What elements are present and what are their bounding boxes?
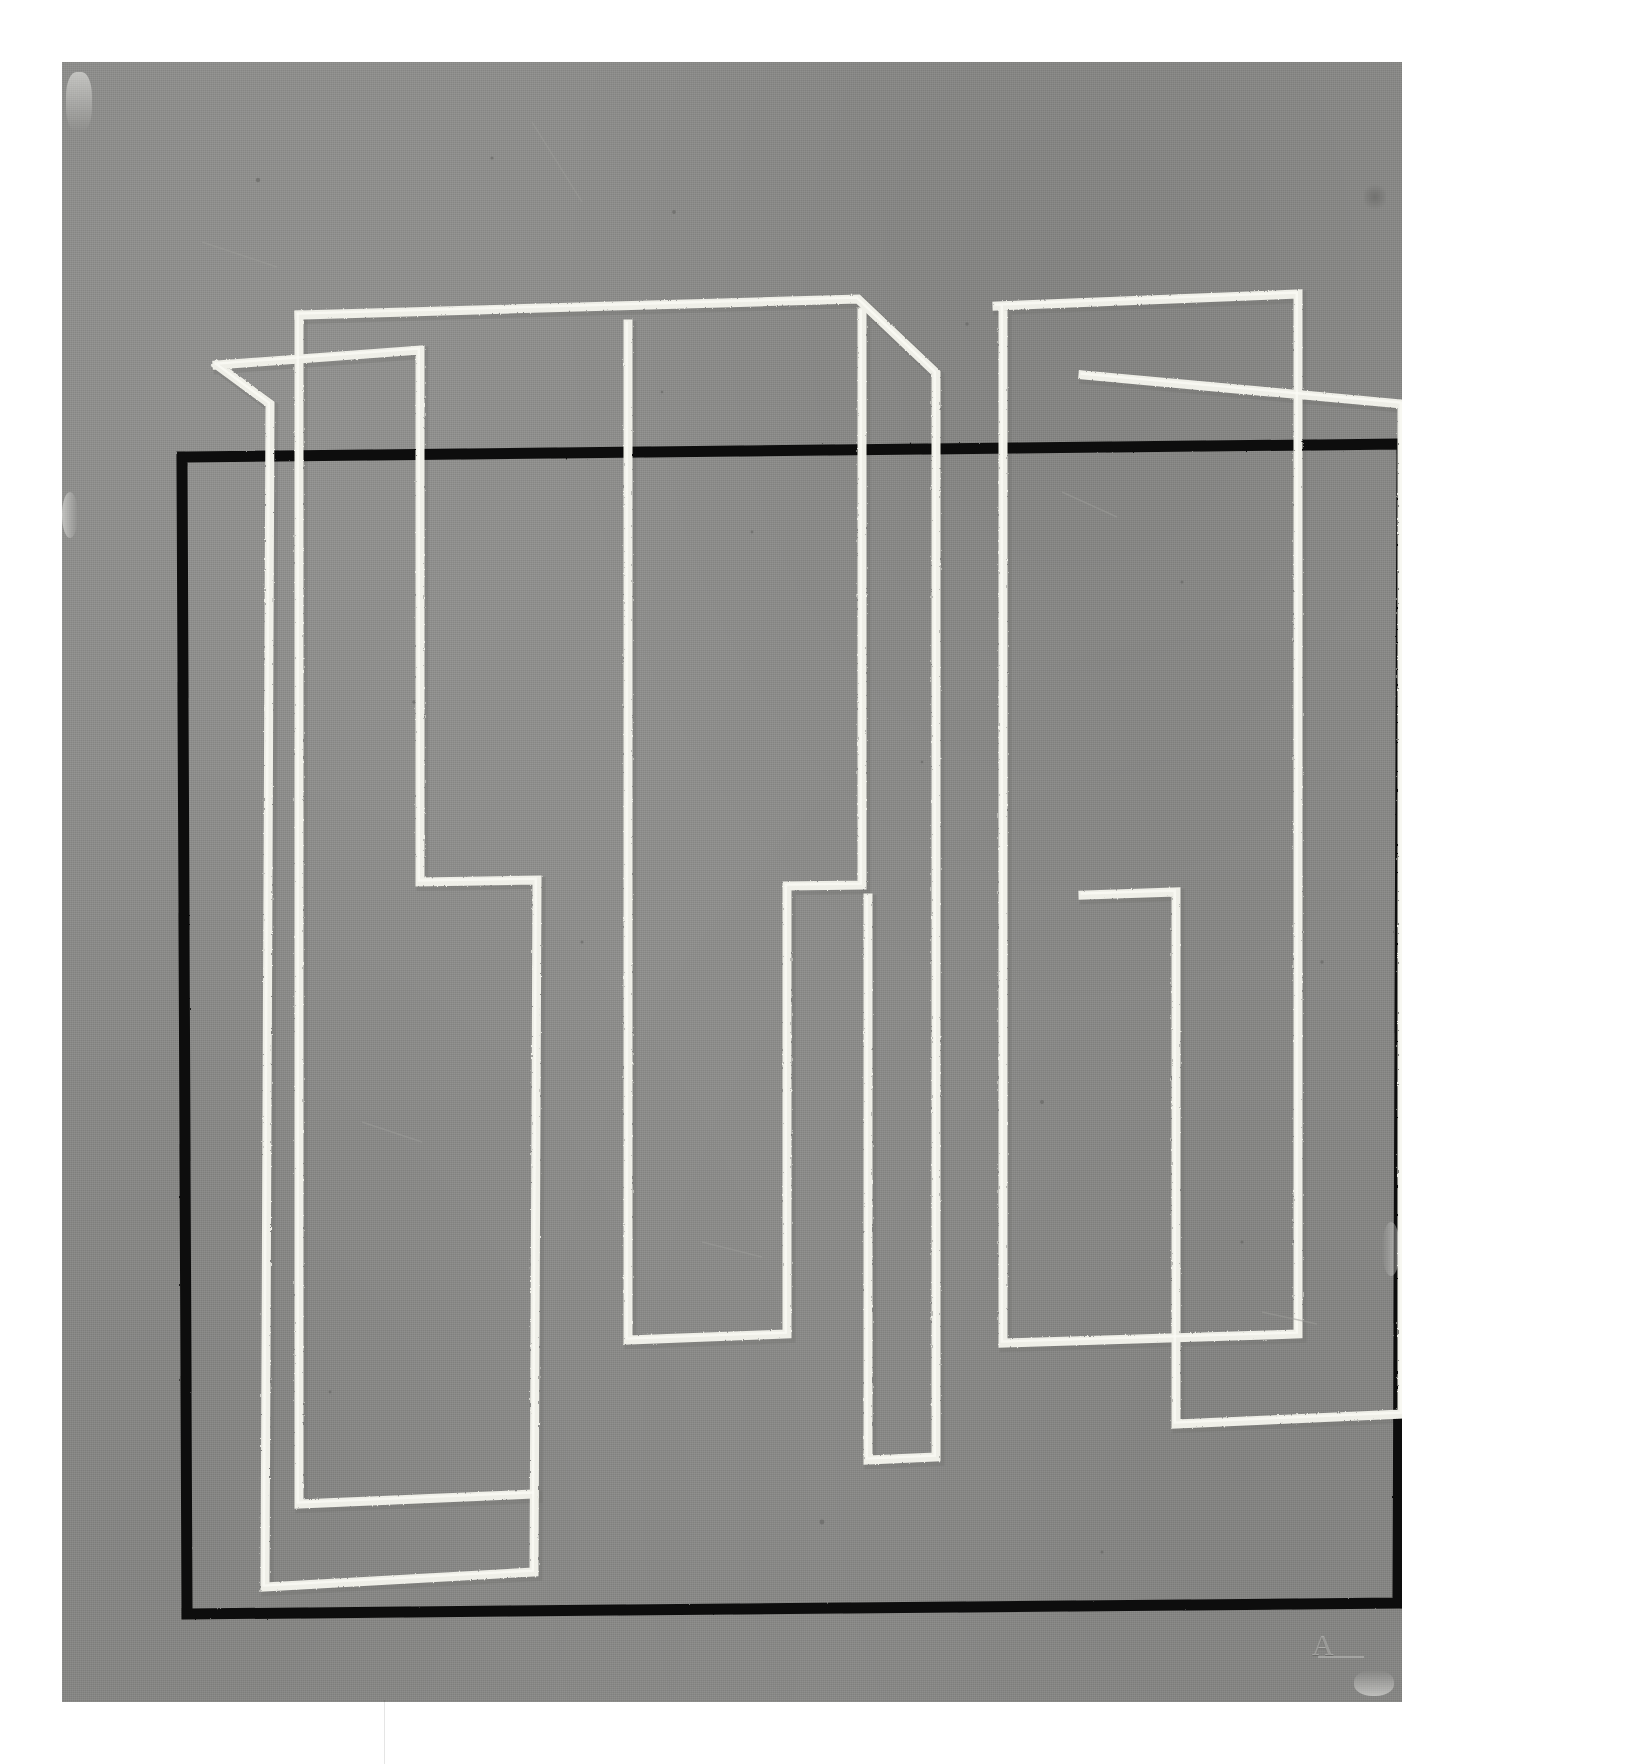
white-shape-4-highlight <box>298 298 935 1459</box>
white-shape-2-highlight <box>298 314 533 1503</box>
plate-seam-line <box>384 1700 385 1764</box>
screenshot-root: A Abstract painting: interlocking white … <box>0 0 1637 1764</box>
white-shape-3-center-tall <box>628 312 862 1340</box>
white-shape-3-highlight <box>627 311 861 1339</box>
white-shape-4-center-upper <box>299 299 936 1460</box>
artwork-linework-svg <box>62 62 1402 1702</box>
white-linework-group <box>217 294 1402 1587</box>
artwork-panel: A <box>62 62 1402 1702</box>
white-shape-5-underlay <box>1000 297 1301 1346</box>
white-line-highlight-group <box>216 293 1401 1586</box>
signature-letter: A <box>1312 1628 1335 1661</box>
white-shape-6-underlay <box>1086 378 1403 1427</box>
artist-signature-monogram: A <box>1312 1628 1364 1658</box>
white-shape-3-underlay <box>631 315 865 1343</box>
white-line-underlay-group <box>220 297 1403 1590</box>
